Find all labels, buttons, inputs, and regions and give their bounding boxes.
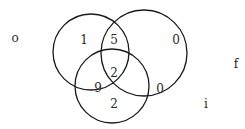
set-label-f: f [234,57,240,71]
set-label-i: i [204,97,208,111]
circle-f [101,10,187,96]
region-f-only: 0 [172,33,180,47]
set-label-o: o [11,31,18,45]
circle-i [75,49,149,123]
region-o-only: 1 [80,33,88,47]
region-i-only: 2 [110,97,118,111]
region-f-i: 0 [156,82,164,96]
venn-diagram: o f i 1 5 0 2 9 0 2 [0,0,245,129]
region-o-i: 9 [94,81,102,95]
region-o-f: 5 [110,33,118,47]
region-o-f-i: 2 [110,66,118,80]
